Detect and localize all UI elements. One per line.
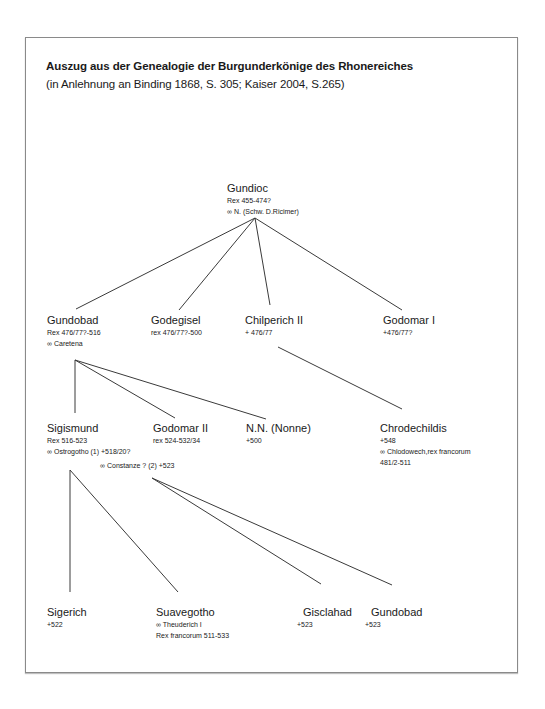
person-chilperich-ii: Chilperich II + 476/77 (245, 313, 303, 338)
person-death: +548 (380, 435, 471, 446)
person-reign: Rex 455-474? (227, 195, 299, 206)
person-sigerich: Sigerich +522 (47, 605, 87, 630)
person-spouse-reign: 481/2-511 (380, 457, 471, 468)
person-gundobad: Gundobad Rex 476/77?-516 ∞ Caretena (47, 313, 101, 349)
edge-gundobad-godomar2 (75, 360, 175, 418)
person-spouse: ∞ Theuderich I (156, 619, 229, 630)
person-death: + 476/77 (245, 327, 303, 338)
edge-chilperich-chrodechildis (278, 347, 402, 409)
person-sigismund: Sigismund Rex 516-523 ∞ Ostrogotho (1) +… (47, 421, 130, 457)
person-name: Godegisel (151, 313, 202, 327)
person-death: +500 (246, 435, 311, 446)
person-reign: Rex 516-523 (47, 435, 130, 446)
person-death: +522 (47, 619, 87, 630)
person-gundobad-son: Gundobad +523 (365, 605, 422, 630)
person-name: Suavegotho (156, 605, 229, 619)
person-death: +523 (297, 619, 352, 630)
edge-gundobad-nn (75, 360, 266, 419)
person-name: Gundioc (227, 181, 299, 195)
genealogy-connectors (0, 0, 545, 709)
person-spouse-1: ∞ Ostrogotho (1) +518/20? (47, 446, 130, 457)
person-death: +476/77? (383, 327, 435, 338)
person-nn-nonne: N.N. (Nonne) +500 (246, 421, 311, 446)
person-name: Godomar I (383, 313, 435, 327)
edge-constanze-gisclahad (152, 478, 321, 584)
person-spouse-reign: Rex francorum 511-533 (156, 630, 229, 641)
person-gundioc: Gundioc Rex 455-474? ∞ N. (Schw. D.Ricim… (227, 181, 299, 217)
person-godomar-i: Godomar I +476/77? (383, 313, 435, 338)
person-name: Gundobad (371, 605, 422, 619)
person-chrodechildis: Chrodechildis +548 ∞ Chlodowech,rex fran… (380, 421, 471, 468)
edge-constanze-gundobad2 (152, 478, 392, 585)
person-spouse: ∞ N. (Schw. D.Ricimer) (227, 206, 299, 217)
edge-sigismund-suavegotho (70, 470, 178, 592)
person-godegisel: Godegisel rex 476/77?-500 (151, 313, 202, 338)
person-name: Sigerich (47, 605, 87, 619)
edge-gundioc-godomar1 (255, 218, 402, 310)
person-godomar-ii: Godomar II rex 524-532/34 (153, 421, 208, 446)
person-name: Chilperich II (245, 313, 303, 327)
person-name: Chrodechildis (380, 421, 471, 435)
person-reign: rex 524-532/34 (153, 435, 208, 446)
person-reign: Rex 476/77?-516 (47, 327, 101, 338)
person-spouse-2: ∞ Constanze ? (2) +523 (100, 460, 174, 471)
edge-gundioc-godegisel (179, 218, 255, 310)
person-spouse: ∞ Chlodowech,rex francorum (380, 446, 471, 457)
edge-gundioc-chilperich (255, 218, 270, 305)
person-reign: rex 476/77?-500 (151, 327, 202, 338)
person-name: Gisclahad (303, 605, 352, 619)
person-spouse: ∞ Caretena (47, 338, 101, 349)
person-name: Gundobad (47, 313, 101, 327)
person-name: Godomar II (153, 421, 208, 435)
person-name: Sigismund (47, 421, 130, 435)
person-death: +523 (365, 619, 422, 630)
edge-gundioc-gundobad (76, 218, 255, 309)
person-gisclahad: Gisclahad +523 (297, 605, 352, 630)
person-suavegotho: Suavegotho ∞ Theuderich I Rex francorum … (156, 605, 229, 641)
person-name: N.N. (Nonne) (246, 421, 311, 435)
